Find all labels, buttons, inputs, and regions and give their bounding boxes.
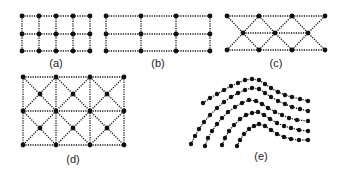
mesh-node [276,90,280,94]
mesh-node [290,105,294,109]
mesh-node [104,32,109,37]
mesh-node [54,14,59,19]
mesh-node [122,109,127,114]
mesh-node [289,126,293,130]
mesh-node [174,14,179,19]
mesh-node [257,48,262,53]
mesh-node [268,117,272,121]
mesh-node [88,75,93,80]
mesh-node [236,91,240,95]
mesh-node [269,95,273,99]
mesh-node [273,110,277,114]
mesh-node [139,32,144,37]
mesh-node [201,101,205,105]
mesh-node [243,88,247,92]
mesh-node [247,127,251,131]
mesh-node [71,126,76,131]
mesh-edge [227,16,243,33]
mesh-node [21,143,26,148]
mesh-node [104,14,109,19]
mesh-node [280,113,284,117]
mesh-node [222,88,226,92]
mesh-node [252,124,256,128]
mesh-node [262,113,266,117]
panel-label-e: (e) [254,150,267,162]
mesh-node [256,110,260,114]
mesh-node [257,87,261,91]
mesh-edge [308,16,325,33]
mesh-node [257,122,261,126]
mesh-node [263,82,267,86]
mesh-node [289,137,293,141]
mesh-node [242,132,246,136]
mesh-node [244,113,248,117]
mesh-node [202,120,206,124]
panel-label-c: (c) [270,57,283,69]
mesh-node [290,95,294,99]
panel-d-grid-with-diagonals [21,75,127,148]
mesh-node [208,113,212,117]
mesh-node [139,14,144,19]
mesh-node [88,109,93,114]
mesh-node [243,78,247,82]
mesh-node [306,31,311,36]
mesh-node [105,92,110,97]
mesh-node [38,92,43,97]
mesh-node [233,105,237,109]
mesh-node [306,119,310,123]
mesh-node [323,14,328,19]
mesh-node [174,49,179,54]
mesh-node [54,32,59,37]
mesh-node [139,49,144,54]
mesh-node [122,75,127,80]
mesh-node [104,49,109,54]
mesh-edge [243,16,259,33]
mesh-node [208,32,213,37]
mesh-node [54,143,59,148]
panel-label-b: (b) [151,57,164,69]
mesh-edge [308,33,325,50]
mesh-node [298,97,302,101]
mesh-node [71,14,76,19]
mesh-node [306,109,310,113]
panel-a-rect-grid [20,14,93,54]
mesh-node [283,93,287,97]
mesh-figure: (a) (b) (c) (d) (e) [0,0,347,176]
mesh-edge [259,16,275,33]
mesh-node [189,142,193,146]
mesh-node [71,92,76,97]
mesh-node [295,118,299,122]
mesh-node [282,135,286,139]
mesh-node [250,111,254,115]
mesh-node [208,14,213,19]
mesh-node [254,99,258,103]
mesh-node [21,109,26,114]
mesh-edge [275,16,292,33]
mesh-node [54,109,59,114]
mesh-node [275,121,279,125]
mesh-node [215,106,219,110]
mesh-node [37,49,42,54]
mesh-node [122,143,127,148]
mesh-node [250,77,254,81]
mesh-edge [243,33,259,50]
mesh-node [241,31,246,36]
mesh-node [71,32,76,37]
mesh-node [215,122,219,126]
mesh-node [306,138,310,142]
mesh-node [273,31,278,36]
mesh-node [208,49,213,54]
mesh-node [287,116,291,120]
mesh-node [88,143,93,148]
mesh-node [275,132,279,136]
mesh-node [290,48,295,53]
mesh-node [235,144,239,148]
mesh-node [247,98,251,102]
mesh-node [266,106,270,110]
mesh-edge [227,33,243,50]
mesh-node [54,75,59,80]
mesh-node [220,143,224,147]
mesh-node [88,49,93,54]
mesh-node [20,32,25,37]
mesh-node [210,129,214,133]
